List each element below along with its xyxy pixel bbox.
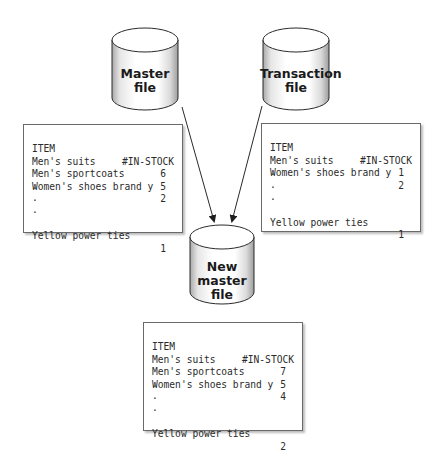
ellipsis-dot: . — [152, 403, 294, 415]
table-row: Men's suits 1 — [270, 142, 412, 154]
ellipsis-dot: . — [270, 192, 412, 204]
transaction-file-records: ITEM #IN-STOCK Men's suits 1 Women's sho… — [261, 123, 421, 232]
table-header: ITEM #IN-STOCK — [270, 130, 412, 142]
table-row: Men's suits 6 — [32, 143, 174, 155]
ellipsis-dot: . — [32, 205, 174, 217]
item-qty: 2 — [280, 441, 286, 453]
new-master-file-records: ITEM #IN-STOCK Men's suits 7 Men's sport… — [143, 322, 303, 431]
master-file-label: Master file — [112, 67, 178, 95]
ellipsis-dot: . — [270, 167, 412, 179]
table-row: Men's suits 7 — [152, 341, 294, 353]
ellipsis-dot: . — [152, 379, 294, 391]
table-row: Women's shoes brand y 2 — [32, 168, 174, 180]
ellipsis-dot: . — [32, 181, 174, 193]
ellipsis-dot: . — [270, 180, 412, 192]
master-file-label-line2: file — [112, 81, 178, 95]
table-row: Yellow power ties 1 — [32, 218, 174, 230]
table-header: ITEM #IN-STOCK — [32, 131, 174, 143]
table-row: Yellow power ties 1 — [270, 204, 412, 216]
table-header: ITEM #IN-STOCK — [152, 329, 294, 341]
transaction-file-label-line2: file — [260, 81, 332, 95]
table-row: Yellow power ties 2 — [152, 416, 294, 428]
table-row: Women's shoes brand y 4 — [152, 366, 294, 378]
table-row: Women's shoes brand y 2 — [270, 155, 412, 167]
item-qty: 1 — [398, 229, 404, 241]
file-update-diagram: Master file Transaction file New master … — [0, 0, 441, 456]
transaction-file-label-line1: Transaction — [260, 67, 332, 81]
new-master-file-label-line1: New — [190, 260, 254, 274]
item-name: Yellow power ties — [270, 217, 368, 229]
master-file-records: ITEM #IN-STOCK Men's suits 6 Men's sport… — [23, 124, 183, 233]
ellipsis-dot: . — [32, 193, 174, 205]
table-row: Men's sportcoats 5 — [152, 354, 294, 366]
arrow-master-to-new-master-icon — [182, 107, 214, 221]
item-name: Yellow power ties — [152, 428, 250, 440]
table-row: Men's sportcoats 5 — [32, 156, 174, 168]
new-master-file-label: New master file — [190, 260, 254, 302]
transaction-file-label: Transaction file — [260, 67, 332, 95]
new-master-file-label-line3: file — [190, 288, 254, 302]
ellipsis-dot: . — [152, 391, 294, 403]
item-name: Yellow power ties — [32, 230, 130, 242]
arrow-transaction-to-new-master-icon — [232, 106, 262, 221]
master-file-label-line1: Master — [112, 67, 178, 81]
new-master-file-label-line2: master — [190, 274, 254, 288]
item-qty: 1 — [160, 243, 166, 255]
